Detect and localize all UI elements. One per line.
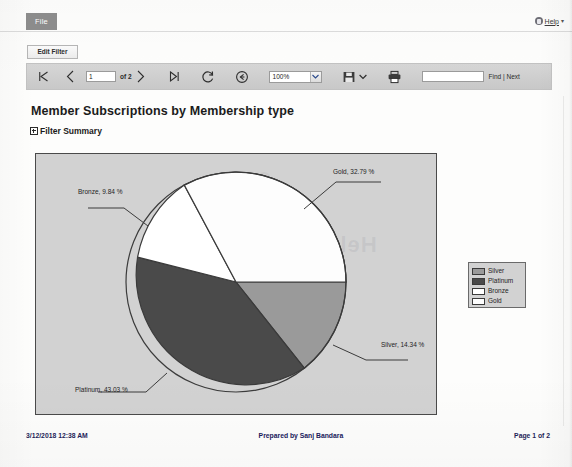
footer-timestamp: 3/12/2018 12:38 AM xyxy=(26,432,88,439)
pie-label-platinum: Platinum, 43.03 % xyxy=(75,386,128,393)
chart-legend: Silver Platinum Bronze Gold xyxy=(468,262,526,308)
first-page-icon[interactable] xyxy=(37,70,50,83)
filter-summary-label: Filter Summary xyxy=(40,126,102,136)
export-dropdown-caret-icon[interactable] xyxy=(359,74,367,80)
zoom-value-label: 100% xyxy=(270,73,290,80)
chevron-down-icon[interactable] xyxy=(310,72,321,82)
legend-item-gold: Gold xyxy=(472,296,525,306)
page-count-label: of 2 xyxy=(120,73,132,80)
legend-swatch-bronze xyxy=(472,288,485,295)
leader-line-bronze xyxy=(88,208,148,226)
zoom-select[interactable]: 100% xyxy=(269,71,322,83)
find-input[interactable] xyxy=(422,71,484,82)
legend-swatch-silver xyxy=(472,268,485,275)
footer-page-info: Page 1 of 2 xyxy=(514,432,550,439)
legend-label-gold: Gold xyxy=(488,298,502,305)
help-menu-label: Help xyxy=(545,18,559,25)
expand-plus-box-icon[interactable] xyxy=(30,127,38,135)
previous-page-icon[interactable] xyxy=(64,69,77,84)
next-link[interactable]: Next xyxy=(507,73,520,80)
pie-label-gold: Gold, 32.79 % xyxy=(333,168,374,175)
find-separator: | xyxy=(503,73,505,80)
report-viewer-toolbar: of 2 100% xyxy=(26,63,552,90)
refresh-icon[interactable] xyxy=(201,70,215,84)
legend-label-silver: Silver xyxy=(488,268,504,275)
help-circle-icon xyxy=(535,17,543,25)
legend-swatch-gold xyxy=(472,298,485,305)
page-number-input[interactable] xyxy=(86,71,116,82)
legend-label-bronze: Bronze xyxy=(488,288,509,295)
next-page-icon[interactable] xyxy=(134,69,147,84)
last-page-icon[interactable] xyxy=(167,70,181,83)
filter-summary-toggle[interactable]: Filter Summary xyxy=(30,126,102,136)
legend-item-silver: Silver xyxy=(472,266,525,276)
back-to-parent-report-icon[interactable] xyxy=(235,70,249,84)
report-footer: 3/12/2018 12:38 AM Prepared by Sanj Band… xyxy=(26,432,550,439)
footer-prepared-by: Prepared by Sanj Bandara xyxy=(88,432,514,439)
scan-page-edge-line xyxy=(563,96,564,426)
legend-swatch-platinum xyxy=(472,278,485,285)
file-menu-button[interactable]: File xyxy=(26,13,57,30)
legend-item-bronze: Bronze xyxy=(472,286,525,296)
pie-slices-group xyxy=(126,172,346,392)
legend-item-platinum: Platinum xyxy=(472,276,525,286)
print-icon[interactable] xyxy=(387,70,402,84)
find-next-links[interactable]: Find | Next xyxy=(489,73,520,80)
save-export-icon[interactable] xyxy=(342,70,356,84)
leader-line-gold xyxy=(304,182,381,209)
legend-label-platinum: Platinum xyxy=(488,278,513,285)
menu-bar: File Help ▾ xyxy=(0,12,572,32)
edit-filter-button[interactable]: Edit Filter xyxy=(27,45,78,59)
find-link[interactable]: Find xyxy=(489,73,502,80)
page-title: Member Subscriptions by Membership type xyxy=(31,104,294,118)
help-menu[interactable]: Help ▾ xyxy=(535,14,564,28)
chevron-down-icon: ▾ xyxy=(561,18,564,24)
pie-label-bronze: Bronze, 9.84 % xyxy=(78,188,122,195)
pie-label-silver: Silver, 14.34 % xyxy=(381,341,424,348)
